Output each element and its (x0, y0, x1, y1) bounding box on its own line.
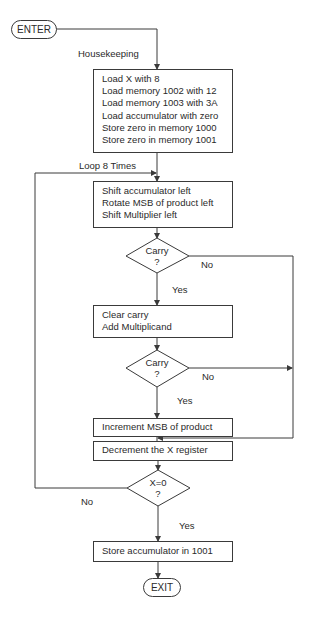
process-box-add: Clear carry Add Multiplicand (93, 305, 233, 338)
decision-carry-1-text: Carry ? (132, 245, 182, 267)
box-line: Clear carry (102, 309, 232, 321)
box-line: Store accumulator in 1001 (102, 545, 232, 557)
box-line: Shift Multiplier left (102, 209, 232, 221)
decision-line: ? (132, 368, 182, 379)
yes-label: Yes (172, 284, 188, 295)
box-line: Load X with 8 (102, 73, 232, 85)
decision-line: Carry (132, 245, 182, 256)
housekeeping-label: Housekeeping (78, 48, 139, 59)
end-label: EXIT (151, 582, 173, 593)
loop-label: Loop 8 Times (79, 160, 136, 171)
start-terminal: ENTER (11, 20, 57, 39)
box-line: Load memory 1002 with 12 (102, 85, 232, 97)
start-label: ENTER (17, 24, 51, 35)
process-box-increment: Increment MSB of product (93, 418, 233, 437)
box-line: Increment MSB of product (102, 421, 232, 433)
decision-x-zero-text: X=0 ? (133, 477, 183, 499)
box-line: Add Multiplicand (102, 321, 232, 333)
yes-label: Yes (177, 395, 193, 406)
decision-line: ? (133, 488, 183, 499)
box-line: Store zero in memory 1001 (102, 134, 232, 146)
decision-line: X=0 (133, 477, 183, 488)
yes-label: Yes (179, 520, 195, 531)
decision-line: ? (132, 256, 182, 267)
decision-line: Carry (132, 357, 182, 368)
process-box-shift: Shift accumulator left Rotate MSB of pro… (93, 181, 233, 228)
box-line: Load accumulator with zero (102, 110, 232, 122)
process-box-store: Store accumulator in 1001 (93, 541, 233, 562)
box-line: Rotate MSB of product left (102, 197, 232, 209)
end-terminal: EXIT (143, 578, 181, 597)
box-line: Load memory 1003 with 3A (102, 97, 232, 109)
no-label: No (81, 496, 93, 507)
box-line: Store zero in memory 1000 (102, 122, 232, 134)
box-line: Shift accumulator left (102, 185, 232, 197)
no-label: No (201, 259, 213, 270)
no-label: No (202, 371, 214, 382)
process-box-decrement: Decrement the X register (93, 441, 233, 461)
process-box-housekeeping: Load X with 8 Load memory 1002 with 12 L… (93, 69, 233, 153)
box-line: Decrement the X register (102, 444, 232, 456)
decision-carry-2-text: Carry ? (132, 357, 182, 379)
